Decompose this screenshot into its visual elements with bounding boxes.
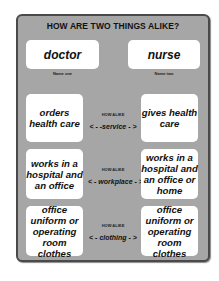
row1-how-value: < - -service - >	[88, 123, 138, 130]
row3-left-text: office uniform or operating room clothes	[26, 204, 83, 259]
row2-how-value: < - workplace - >	[88, 178, 138, 185]
row3-how-value: < - clothing - >	[88, 234, 138, 241]
comparison-organizer: HOW ARE TWO THINGS ALIKE? doctor Name on…	[16, 14, 210, 262]
organizer-title: HOW ARE TWO THINGS ALIKE?	[18, 21, 208, 31]
row3-left-box: office uniform or operating room clothes	[26, 206, 83, 256]
item-one-box: doctor	[26, 40, 99, 69]
row2-left-box: works in a hospital and an office	[26, 149, 83, 199]
row1-how-label: HOW ALIKE	[88, 112, 138, 117]
item-two-box: nurse	[128, 40, 200, 69]
item-one-label: Name one	[26, 71, 99, 76]
row3-right-box: office uniform or operating room clothes	[141, 206, 198, 256]
row1-left-box: orders health care	[26, 94, 83, 142]
item-two-name: nurse	[148, 48, 181, 62]
row3-right-text: office uniform or operating room clothes	[141, 204, 198, 259]
row1-left-text: orders health care	[26, 107, 83, 129]
row3-how-alike: HOW ALIKE < - clothing - >	[88, 223, 138, 241]
row3-how-label: HOW ALIKE	[88, 223, 138, 228]
row1-right-text: gives health care	[141, 107, 198, 129]
item-one-name: doctor	[44, 48, 81, 62]
row2-how-label: HOW ALIKE	[88, 167, 138, 172]
row2-left-text: works in a hospital and an office	[26, 158, 83, 191]
row2-how-alike: HOW ALIKE < - workplace - >	[88, 167, 138, 185]
row1-right-box: gives health care	[141, 94, 198, 142]
row2-right-box: works in a hospital and an office or hom…	[141, 149, 198, 199]
row1-how-alike: HOW ALIKE < - -service - >	[88, 112, 138, 130]
row2-right-text: works in a hospital and an office or hom…	[141, 152, 198, 196]
item-two-label: Name two	[128, 71, 200, 76]
